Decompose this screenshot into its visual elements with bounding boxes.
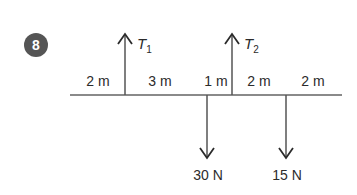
segment-label: 2 m bbox=[301, 73, 324, 89]
problem-number: 8 bbox=[32, 37, 40, 53]
segment-label: 1 m bbox=[204, 73, 227, 89]
tension-t2-label: T2 bbox=[244, 35, 259, 55]
problem-number-badge: 8 bbox=[24, 33, 48, 57]
segment-label: 2 m bbox=[247, 73, 270, 89]
load-30n-label: 30 N bbox=[193, 167, 223, 183]
beam-diagram: 8 2 m 3 m 1 m 2 m 2 m T1 T2 30 N 15 N bbox=[0, 0, 357, 195]
load-15n-arrow: 15 N bbox=[272, 95, 302, 183]
load-30n-arrow: 30 N bbox=[193, 95, 223, 183]
tension-t1-label: T1 bbox=[137, 35, 152, 55]
load-15n-label: 15 N bbox=[272, 167, 302, 183]
segment-label: 2 m bbox=[86, 73, 109, 89]
segment-label: 3 m bbox=[148, 73, 171, 89]
tension-t1-arrow: T1 bbox=[118, 34, 152, 95]
